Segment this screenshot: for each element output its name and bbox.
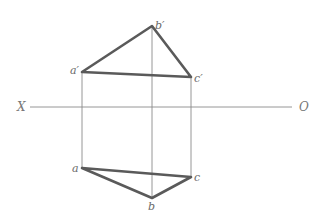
label-a: a (72, 162, 79, 175)
label-b: b (148, 200, 155, 213)
axis-label-x: X (16, 100, 26, 114)
top-view-triangle (82, 168, 191, 198)
label-a-prime: a′ (70, 64, 80, 77)
projection-diagram: X O a′ b′ c′ a b c (0, 0, 328, 224)
label-b-prime: b′ (155, 19, 165, 32)
front-view-triangle (82, 26, 191, 77)
label-c: c (194, 171, 200, 184)
label-c-prime: c′ (194, 72, 203, 85)
axis-label-o: O (299, 100, 309, 114)
